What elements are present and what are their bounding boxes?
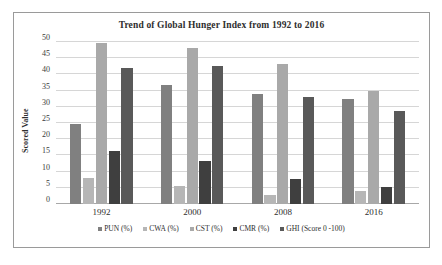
bar	[303, 97, 314, 204]
y-tick-label: 0	[46, 196, 50, 204]
bar	[394, 111, 405, 204]
bar	[199, 161, 210, 204]
legend-label: CWA (%)	[149, 225, 178, 233]
legend-swatch-icon	[143, 227, 147, 231]
y-tick-label: 25	[42, 115, 50, 123]
y-tick-label: 15	[42, 147, 50, 155]
chart-legend: PUN (%)CWA (%)CST (%)CMR (%)GHI (Score 0…	[14, 225, 429, 233]
chart-title: Trend of Global Hunger Index from 1992 t…	[14, 20, 429, 30]
y-axis-tick-labels: 05101520253035404550	[14, 42, 54, 204]
bar	[121, 68, 132, 204]
y-tick-label: 20	[42, 131, 50, 139]
bar	[355, 191, 366, 204]
bar	[96, 43, 107, 204]
bar	[161, 85, 172, 204]
legend-swatch-icon	[98, 227, 102, 231]
legend-item[interactable]: GHI (Score 0 -100)	[280, 225, 345, 233]
legend-swatch-icon	[233, 227, 237, 231]
y-tick-label: 35	[42, 83, 50, 91]
legend-swatch-icon	[190, 227, 194, 231]
legend-item[interactable]: CST (%)	[190, 225, 223, 233]
x-axis-category-labels: 1992200020082016	[56, 206, 419, 222]
bar	[264, 195, 275, 204]
bar	[83, 178, 94, 204]
bar	[368, 91, 379, 204]
y-tick-label: 50	[42, 34, 50, 42]
bar	[174, 186, 185, 204]
x-tick-label: 2000	[183, 207, 201, 217]
legend-label: PUN (%)	[104, 225, 132, 233]
legend-item[interactable]: CWA (%)	[143, 225, 178, 233]
legend-item[interactable]: CMR (%)	[233, 225, 269, 233]
legend-label: CST (%)	[196, 225, 223, 233]
bar	[212, 66, 223, 204]
y-tick-label: 40	[42, 66, 50, 74]
x-tick-label: 1992	[92, 207, 110, 217]
y-tick-label: 30	[42, 99, 50, 107]
y-tick-label: 45	[42, 50, 50, 58]
y-tick-label: 5	[46, 180, 50, 188]
plot-area	[56, 42, 419, 204]
legend-item[interactable]: PUN (%)	[98, 225, 132, 233]
bar	[381, 187, 392, 204]
y-tick-label: 10	[42, 164, 50, 172]
bar-series-container	[56, 42, 419, 204]
bar	[187, 48, 198, 204]
bar	[70, 124, 81, 204]
bar	[277, 64, 288, 204]
bar	[109, 151, 120, 204]
legend-label: CMR (%)	[239, 225, 269, 233]
bar	[342, 99, 353, 204]
chart-frame: Trend of Global Hunger Index from 1992 t…	[13, 12, 430, 248]
bar	[290, 179, 301, 204]
x-tick-label: 2016	[365, 207, 383, 217]
x-tick-label: 2008	[274, 207, 292, 217]
bar	[252, 94, 263, 204]
legend-swatch-icon	[280, 227, 284, 231]
legend-label: GHI (Score 0 -100)	[286, 225, 345, 233]
